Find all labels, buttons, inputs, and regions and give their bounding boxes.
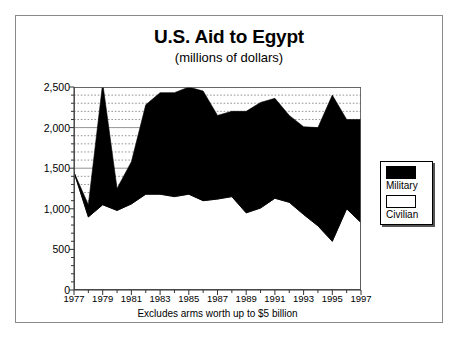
axis-tick-marks (68, 87, 363, 299)
chart-footnote: Excludes arms worth up to $5 billion (74, 308, 361, 319)
y-axis-tick-label: 1,000 (44, 203, 70, 215)
chart-subtitle: (millions of dollars) (16, 50, 442, 65)
y-axis-tick-label: 2,500 (44, 81, 70, 93)
legend-label-civilian: Civilian (386, 209, 428, 221)
y-axis-tick-label: 2,000 (44, 122, 70, 134)
chart-legend: Military Civilian (380, 161, 433, 225)
chart-figure-frame: U.S. Aid to Egypt (millions of dollars) … (15, 15, 443, 323)
legend-swatch-military (386, 166, 416, 179)
chart-title: U.S. Aid to Egypt (16, 26, 442, 48)
legend-swatch-civilian (386, 195, 416, 208)
y-axis-tick-labels: 05001,0001,5002,0002,500 (28, 87, 70, 290)
legend-label-military: Military (386, 180, 428, 192)
y-axis-tick-label: 1,500 (44, 162, 70, 174)
